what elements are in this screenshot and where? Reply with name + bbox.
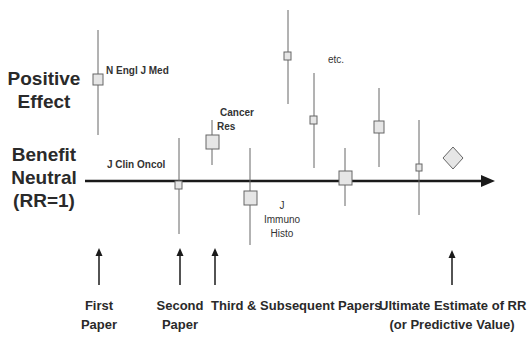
study-6 bbox=[310, 73, 317, 168]
label-cancer-res: Cancer Res bbox=[220, 106, 254, 134]
label-jco: J Clin Oncol bbox=[107, 158, 165, 172]
label-second-paper-line2: Paper bbox=[152, 315, 208, 334]
arrow-ultimate-estimate bbox=[449, 250, 456, 285]
label-cancer-res-line2: Res bbox=[217, 120, 254, 134]
study-5 bbox=[284, 10, 291, 104]
label-j-immuno-line3: Histo bbox=[260, 227, 304, 241]
y-label-neutral-line1: Benefit bbox=[4, 143, 84, 166]
y-label-positive-line2: Effect bbox=[4, 90, 84, 113]
study-jco bbox=[175, 138, 182, 234]
y-label-benefit-neutral: Benefit Neutral (RR=1) bbox=[4, 143, 84, 212]
label-first-paper: First Paper bbox=[74, 296, 124, 334]
label-cancer-res-line1: Cancer bbox=[220, 106, 254, 120]
label-j-immuno-line2: Immuno bbox=[260, 213, 304, 227]
study-nejm bbox=[93, 30, 103, 135]
study-7 bbox=[339, 148, 352, 206]
label-third-subsequent: Third & Subsequent Papers bbox=[211, 296, 381, 315]
label-j-immuno-line1: J bbox=[260, 199, 304, 213]
study-8 bbox=[374, 88, 384, 167]
arrow-second-paper bbox=[177, 248, 184, 285]
arrow-third-paper bbox=[212, 248, 219, 285]
label-ultimate-line1: Ultimate Estimate of RR bbox=[379, 296, 525, 315]
pooled-estimate-diamond bbox=[443, 147, 463, 169]
label-ultimate-line2: (or Predictive Value) bbox=[379, 315, 525, 334]
label-ultimate-estimate: Ultimate Estimate of RR (or Predictive V… bbox=[379, 296, 525, 334]
study-9 bbox=[416, 120, 422, 215]
y-label-neutral-line2: Neutral bbox=[4, 166, 84, 189]
label-second-paper: Second Paper bbox=[152, 296, 208, 334]
label-etc: etc. bbox=[328, 53, 344, 67]
y-label-neutral-line3: (RR=1) bbox=[4, 189, 84, 212]
label-second-paper-line1: Second bbox=[152, 296, 208, 315]
arrow-first-paper bbox=[96, 248, 103, 285]
neutral-axis-arrow bbox=[85, 175, 495, 187]
label-first-paper-line1: First bbox=[74, 296, 124, 315]
label-first-paper-line2: Paper bbox=[74, 315, 124, 334]
label-nejm: N Engl J Med bbox=[106, 64, 169, 78]
y-label-positive-effect: Positive Effect bbox=[4, 67, 84, 113]
study-j-immuno-histo bbox=[244, 148, 257, 245]
y-label-positive-line1: Positive bbox=[4, 67, 84, 90]
label-j-immuno-histo: J Immuno Histo bbox=[260, 199, 304, 241]
